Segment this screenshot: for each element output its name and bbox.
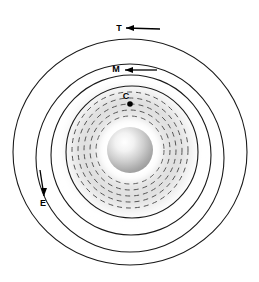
arrow-head-t	[126, 25, 134, 31]
arrow-head-m	[125, 67, 133, 73]
orbit-label-c: C	[123, 91, 130, 101]
orbit-label-e: E	[40, 198, 46, 208]
orbit-label-t: T	[116, 23, 122, 33]
orbit-diagram-canvas: T M C E	[0, 0, 259, 282]
central-sphere	[100, 120, 160, 180]
orbit-diagram-figure: T M C E	[0, 0, 259, 282]
orbit-label-m: M	[112, 64, 120, 74]
point-marker-c	[127, 101, 133, 107]
